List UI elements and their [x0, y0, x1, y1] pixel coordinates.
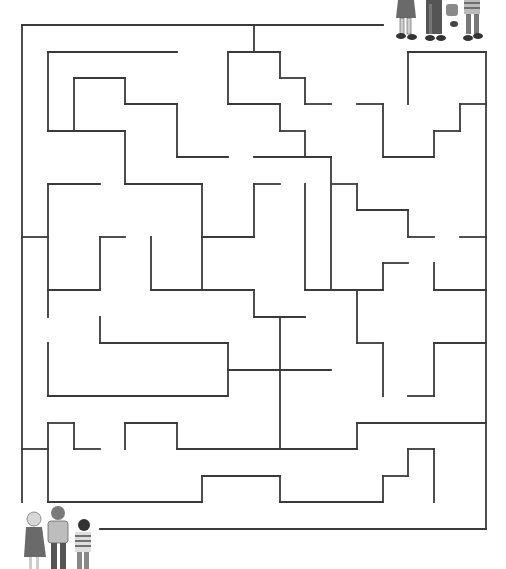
striped-child-figure-icon	[75, 519, 91, 569]
maze-board	[0, 0, 506, 569]
teddy-bear-icon	[446, 4, 458, 27]
girl-figure-icon	[24, 512, 46, 569]
boy-figure-icon	[425, 0, 446, 41]
maze-walls	[22, 25, 486, 529]
children-goal-illustration	[392, 0, 488, 44]
children-start-illustration	[20, 505, 100, 569]
girl-figure-icon	[396, 0, 417, 40]
boy-figure-icon	[48, 506, 68, 569]
striped-child-figure-icon	[463, 0, 483, 41]
